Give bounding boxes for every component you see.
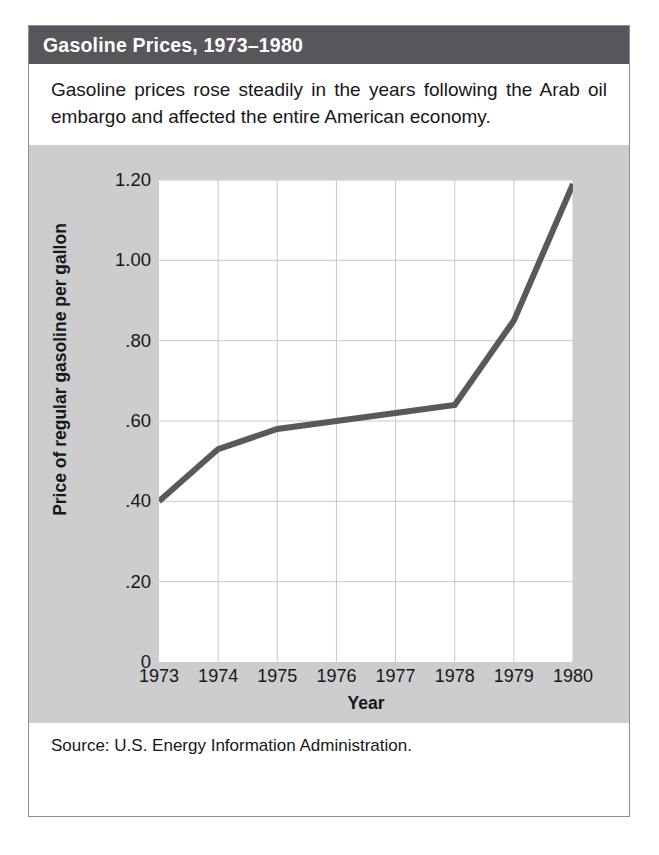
x-axis-tick-label: 1978: [435, 666, 475, 687]
x-axis-tick-labels: 19731974197519761977197819791980: [159, 666, 573, 692]
gridlines: [159, 180, 573, 662]
figure-caption-block: Gasoline prices rose steadily in the yea…: [29, 64, 629, 145]
plot-area: [159, 180, 573, 662]
figure-title-band: Gasoline Prices, 1973–1980: [29, 26, 629, 64]
data-line: [159, 184, 573, 501]
y-axis-title: Price of regular gasoline per gallon: [50, 199, 71, 539]
y-axis-tick-label: 1.20: [85, 169, 151, 191]
y-axis-tick-label: 1.00: [85, 249, 151, 271]
y-axis-tick-label: .20: [85, 571, 151, 593]
line-chart-svg: [159, 180, 573, 662]
y-axis-tick-label: .80: [85, 330, 151, 352]
y-axis-tick-label: .60: [85, 410, 151, 432]
x-axis-tick-label: 1979: [494, 666, 534, 687]
y-axis-tick-label: .40: [85, 490, 151, 512]
figure-container: Gasoline Prices, 1973–1980 Gasoline pric…: [28, 25, 630, 817]
figure-title: Gasoline Prices, 1973–1980: [43, 34, 303, 57]
data-series-gasoline-price: [159, 184, 573, 501]
chart-panel: Price of regular gasoline per gallon 0.2…: [29, 145, 629, 723]
x-axis-tick-label: 1980: [553, 666, 593, 687]
x-axis-tick-label: 1976: [316, 666, 356, 687]
figure-source-block: Source: U.S. Energy Information Administ…: [29, 723, 629, 769]
x-axis-tick-label: 1977: [376, 666, 416, 687]
x-axis-tick-label: 1973: [139, 666, 179, 687]
x-axis-title: Year: [159, 693, 573, 714]
figure-caption: Gasoline prices rose steadily in the yea…: [51, 77, 607, 131]
y-axis-tick-labels: 0.20.40.60.801.001.20: [83, 180, 151, 662]
x-axis-tick-label: 1974: [198, 666, 238, 687]
x-axis-tick-label: 1975: [257, 666, 297, 687]
figure-source: Source: U.S. Energy Information Administ…: [51, 736, 412, 755]
